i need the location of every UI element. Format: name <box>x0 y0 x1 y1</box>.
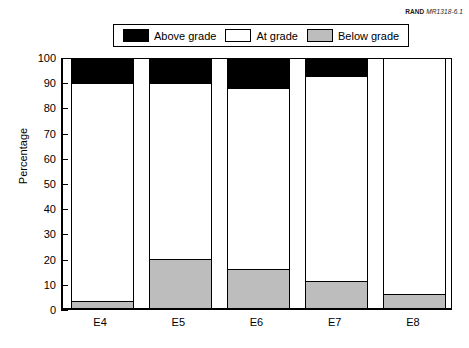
x-tick-label-e7: E7 <box>305 316 365 328</box>
bar-segment-below[interactable] <box>149 259 212 309</box>
y-tick-label: 0 <box>26 305 56 316</box>
legend-swatch-above-grade <box>123 29 149 42</box>
bar-group-e5 <box>149 56 212 308</box>
bar-group-e6 <box>227 56 290 308</box>
y-tick-label: 90 <box>26 78 56 89</box>
x-tick-label-e4: E4 <box>70 316 130 328</box>
chart-legend: Above grade At grade Below grade <box>113 24 409 47</box>
stacked-bar[interactable] <box>71 59 134 308</box>
bar-group-e7 <box>305 56 368 308</box>
legend-swatch-at-grade <box>225 29 251 42</box>
y-tick-mark <box>61 310 68 311</box>
bar-segment-at[interactable] <box>71 83 134 302</box>
x-tick-label-e6: E6 <box>227 316 287 328</box>
y-tick-label: 10 <box>26 280 56 291</box>
y-tick-label: 50 <box>26 179 56 190</box>
bar-segment-at[interactable] <box>149 83 212 259</box>
bar-segment-above[interactable] <box>71 59 134 84</box>
legend-label-at-grade: At grade <box>256 30 298 42</box>
x-tick-label-e8: E8 <box>383 316 443 328</box>
y-tick-label: 80 <box>26 103 56 114</box>
plot-area <box>61 58 452 310</box>
x-tick-label-e5: E5 <box>148 316 208 328</box>
bar-segment-below[interactable] <box>227 269 290 309</box>
y-tick-label: 30 <box>26 229 56 240</box>
bar-segment-below[interactable] <box>383 294 446 309</box>
document-id-label: MR1318-6.1 <box>426 8 463 15</box>
legend-entry-below-grade: Below grade <box>307 29 399 42</box>
y-tick-label: 20 <box>26 255 56 266</box>
bar-segment-above[interactable] <box>149 59 212 84</box>
legend-entry-at-grade: At grade <box>225 29 298 42</box>
bar-segment-at[interactable] <box>383 58 446 295</box>
y-tick-label: 70 <box>26 129 56 140</box>
y-tick-label: 100 <box>26 53 56 64</box>
legend-label-above-grade: Above grade <box>154 30 216 42</box>
bar-segment-below[interactable] <box>71 301 134 309</box>
stacked-bar[interactable] <box>305 59 368 308</box>
y-tick-label: 60 <box>26 154 56 165</box>
bar-segment-above[interactable] <box>305 59 368 77</box>
legend-entry-above-grade: Above grade <box>123 29 216 42</box>
legend-swatch-below-grade <box>307 29 333 42</box>
bar-group-e8 <box>383 56 446 308</box>
legend-label-below-grade: Below grade <box>338 30 399 42</box>
source-credit: RAND MR1318-6.1 <box>405 8 463 15</box>
y-tick-label: 40 <box>26 204 56 215</box>
stacked-bar[interactable] <box>149 59 212 308</box>
bar-segment-below[interactable] <box>305 281 368 309</box>
stacked-bar[interactable] <box>383 58 446 308</box>
bar-segment-at[interactable] <box>227 88 290 269</box>
bar-group-e4 <box>71 56 134 308</box>
bar-segment-above[interactable] <box>227 59 290 89</box>
stacked-bar[interactable] <box>227 59 290 308</box>
bar-segment-at[interactable] <box>305 76 368 283</box>
publisher-label: RAND <box>405 8 424 15</box>
